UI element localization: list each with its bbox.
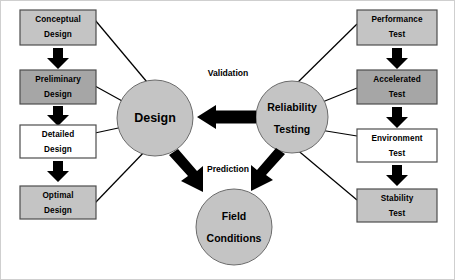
validation-label: Validation bbox=[208, 68, 249, 78]
connector-accelerated-to-reliability bbox=[320, 88, 357, 103]
field-conditions-circle[interactable] bbox=[196, 189, 272, 265]
connector-stability-to-reliability bbox=[295, 148, 357, 200]
left-arrow-icon bbox=[197, 105, 256, 129]
box-environment-test[interactable]: Environment Test bbox=[357, 129, 437, 162]
arrow-reliability-to-design bbox=[197, 105, 256, 129]
field-conditions-circle-group[interactable]: Field Conditions bbox=[196, 189, 272, 265]
conceptual-design-label-line1: Conceptual bbox=[35, 15, 81, 24]
down-arrow-icon bbox=[386, 48, 408, 69]
reliability-testing-label-line1: Reliability bbox=[267, 101, 317, 113]
box-optimal-design[interactable]: Optimal Design bbox=[20, 186, 96, 219]
arrow-environment-to-stability bbox=[386, 165, 408, 186]
field-conditions-label-line1: Field bbox=[222, 210, 247, 222]
optimal-design-label-line1: Optimal bbox=[42, 191, 73, 200]
field-conditions-label-line2: Conditions bbox=[207, 232, 262, 244]
reliability-testing-circle-group[interactable]: Reliability Testing bbox=[256, 81, 328, 153]
reliability-testing-label-line2: Testing bbox=[274, 123, 311, 135]
arrow-accelerated-to-environment bbox=[386, 107, 408, 128]
down-arrow-icon bbox=[47, 106, 69, 126]
stability-test-label-line2: Test bbox=[389, 209, 406, 218]
box-detailed-design[interactable]: Detailed Design bbox=[20, 125, 96, 158]
down-arrow-icon bbox=[386, 107, 408, 128]
box-conceptual-design[interactable]: Conceptual Design bbox=[20, 10, 96, 45]
conceptual-design-label-line2: Design bbox=[44, 30, 72, 39]
arrow-reliability-to-field-conditions bbox=[251, 148, 285, 191]
connector-preliminary-to-design bbox=[95, 86, 124, 102]
arrow-preliminary-to-detailed bbox=[47, 106, 69, 126]
arrow-conceptual-to-preliminary bbox=[47, 48, 69, 69]
performance-test-label-line1: Performance bbox=[371, 15, 423, 24]
box-stability-test[interactable]: Stability Test bbox=[357, 189, 437, 222]
preliminary-design-label-line2: Design bbox=[44, 90, 72, 99]
detailed-design-label-line2: Design bbox=[44, 145, 72, 154]
down-arrow-icon bbox=[47, 161, 69, 182]
box-performance-test[interactable]: Performance Test bbox=[357, 10, 437, 45]
environment-test-label-line2: Test bbox=[389, 149, 406, 158]
arrow-performance-to-accelerated bbox=[386, 48, 408, 69]
preliminary-design-label-line1: Preliminary bbox=[35, 75, 81, 84]
reliability-testing-circle[interactable] bbox=[256, 81, 328, 153]
optimal-design-label-line2: Design bbox=[44, 206, 72, 215]
down-arrow-icon bbox=[47, 48, 69, 69]
connector-performance-to-reliability bbox=[292, 24, 357, 88]
prediction-label: Prediction bbox=[207, 164, 249, 174]
accelerated-test-label-line2: Test bbox=[389, 90, 406, 99]
design-circle-group[interactable]: Design bbox=[117, 80, 193, 156]
diagram-svg: Conceptual Design Preliminary Design Det… bbox=[0, 0, 455, 280]
connector-conceptual-to-design bbox=[95, 20, 152, 88]
stability-test-label-line1: Stability bbox=[381, 194, 414, 203]
double-arrow-icon bbox=[169, 149, 203, 192]
down-arrow-icon bbox=[386, 165, 408, 186]
box-accelerated-test[interactable]: Accelerated Test bbox=[357, 70, 437, 104]
environment-test-label-line1: Environment bbox=[371, 134, 422, 143]
right-column-group: Performance Test Accelerated Test Enviro… bbox=[357, 10, 437, 222]
arrow-design-to-field-conditions bbox=[169, 149, 203, 192]
accelerated-test-label-line1: Accelerated bbox=[373, 75, 421, 84]
left-column-group: Conceptual Design Preliminary Design Det… bbox=[20, 10, 96, 219]
double-arrow-icon bbox=[251, 148, 285, 191]
design-circle-label: Design bbox=[134, 111, 176, 125]
arrow-detailed-to-optimal bbox=[47, 161, 69, 182]
connector-optimal-to-design bbox=[95, 148, 148, 203]
detailed-design-label-line1: Detailed bbox=[42, 130, 75, 139]
box-preliminary-design[interactable]: Preliminary Design bbox=[20, 70, 96, 104]
diagram-canvas: Conceptual Design Preliminary Design Det… bbox=[0, 0, 455, 280]
performance-test-label-line2: Test bbox=[389, 30, 406, 39]
